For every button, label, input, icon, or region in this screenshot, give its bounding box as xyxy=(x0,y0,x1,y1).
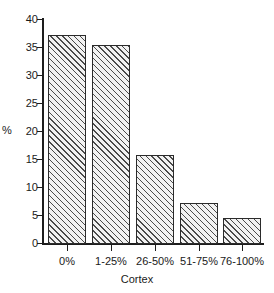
x-tick-mark-4 xyxy=(242,245,243,251)
x-tick-mark-0 xyxy=(67,245,68,251)
x-tick-label-1-25: 1-25% xyxy=(95,255,127,267)
x-tick-label-76-100: 76-100% xyxy=(220,255,264,267)
bar-76-100pct xyxy=(223,218,261,244)
x-tick-mark-2 xyxy=(155,245,156,251)
bars-layer xyxy=(0,0,274,293)
x-axis-title: Cortex xyxy=(0,273,274,285)
bar-0pct xyxy=(48,35,86,244)
x-tick-label-26-50: 26-50% xyxy=(136,255,174,267)
bar-51-75pct xyxy=(180,203,218,244)
x-tick-mark-1 xyxy=(111,245,112,251)
x-tick-label-0: 0% xyxy=(59,255,75,267)
bar-26-50pct xyxy=(136,155,174,244)
x-tick-label-51-75: 51-75% xyxy=(180,255,218,267)
x-tick-mark-3 xyxy=(199,245,200,251)
bar-1-25pct xyxy=(92,45,130,244)
bar-chart: 40 35 30 25 20 15 10 5 0 % 0% 1-25% 26-5… xyxy=(0,0,274,293)
